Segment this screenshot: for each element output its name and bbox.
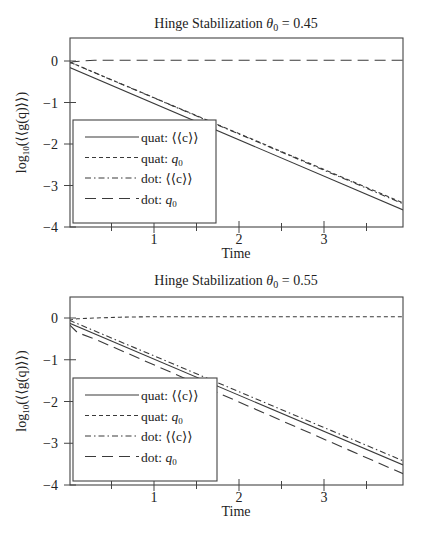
legend-label: quat: ⟨⟨c⟩⟩ [141, 388, 198, 403]
legend-label: dot: q0 [141, 192, 177, 209]
x-axis-label: Time [221, 504, 250, 519]
y-tick-label: 0 [51, 311, 58, 326]
figure-canvas: Hinge Stabilization θ0 = 0.450−1−2−3−412… [0, 0, 430, 550]
y-tick-label: −2 [43, 395, 58, 410]
y-axis-label: log10(⟨⟨g(q)⟩⟩) [14, 350, 31, 432]
legend-label: dot: ⟨⟨c⟩⟩ [141, 429, 192, 444]
x-tick-label: 3 [321, 232, 328, 247]
legend: quat: ⟨⟨c⟩⟩quat: q0dot: ⟨⟨c⟩⟩dot: q0 [73, 120, 216, 223]
chart-title: Hinge Stabilization θ0 = 0.55 [154, 273, 317, 290]
legend-label: dot: q0 [141, 450, 177, 467]
y-axis-label: log10(⟨⟨g(q)⟩⟩) [14, 91, 31, 173]
y-tick-label: 0 [51, 54, 58, 69]
y-tick-label: −4 [43, 220, 58, 235]
x-tick-label: 1 [151, 490, 158, 505]
chart-title: Hinge Stabilization θ0 = 0.45 [154, 16, 317, 33]
x-tick-label: 2 [236, 232, 243, 247]
series-line-dashed [69, 317, 403, 320]
chart-1: Hinge Stabilization θ0 = 0.450−1−2−3−412… [14, 16, 403, 261]
x-tick-label: 3 [321, 490, 328, 505]
y-tick-label: −3 [43, 436, 58, 451]
y-tick-label: −1 [43, 96, 58, 111]
legend: quat: ⟨⟨c⟩⟩quat: q0dot: ⟨⟨c⟩⟩dot: q0 [73, 378, 217, 481]
x-axis-label: Time [221, 246, 250, 261]
x-tick-label: 1 [151, 232, 158, 247]
legend-label: quat: ⟨⟨c⟩⟩ [141, 130, 198, 145]
x-tick-label: 2 [236, 490, 243, 505]
legend-label: dot: ⟨⟨c⟩⟩ [141, 171, 192, 186]
legend-label: quat: q0 [141, 409, 183, 426]
y-tick-label: −1 [43, 353, 58, 368]
y-tick-label: −2 [43, 137, 58, 152]
y-tick-label: −3 [43, 179, 58, 194]
series-line-longdash [69, 60, 403, 63]
chart-2: Hinge Stabilization θ0 = 0.550−1−2−3−412… [14, 273, 403, 519]
y-tick-label: −4 [43, 478, 58, 493]
legend-label: quat: q0 [141, 151, 183, 168]
